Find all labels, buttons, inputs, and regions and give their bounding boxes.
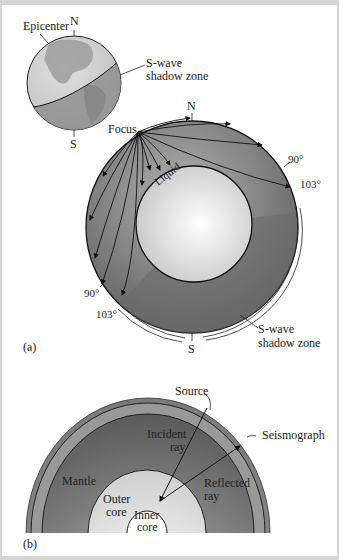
angle-right-103: 103°	[300, 178, 321, 190]
incident-ray-label-line1: Incident	[147, 427, 187, 441]
angle-right-90: 90°	[288, 153, 303, 165]
reflected-ray-label-line1: Reflected	[204, 476, 250, 490]
globe-shadow-label-line2: shadow zone	[146, 69, 208, 83]
inner-core-label-line2: core	[137, 520, 158, 534]
south-label: S	[188, 342, 195, 356]
globe-south-label: S	[70, 137, 77, 151]
globe-shadow-label-line1: S-wave	[146, 56, 182, 70]
seismic-wave-diagram: N S Epicenter S-wave shadow zone	[2, 5, 337, 556]
mantle-label: Mantle	[62, 474, 96, 488]
globe-north-label: N	[70, 14, 79, 28]
panel-a-label: (a)	[23, 340, 36, 354]
angle-left-90: 90°	[84, 287, 99, 299]
focus-label: Focus	[108, 122, 137, 136]
shadow-zone-label-line2: shadow zone	[258, 336, 320, 350]
figure-page: N S Epicenter S-wave shadow zone	[2, 5, 337, 556]
north-label: N	[187, 99, 196, 113]
reflected-ray-label-line2: ray	[204, 489, 219, 503]
panel-b-label: (b)	[23, 537, 37, 551]
earth-cross-section: Liquid Focus N S 90° 103° 90° 103° S-wav…	[84, 99, 321, 376]
outer-core-label-line1: Outer	[103, 492, 130, 506]
incident-ray-label-line2: ray	[170, 440, 185, 454]
liquid-outer-core	[136, 166, 252, 282]
outer-core-label-line2: core	[106, 505, 127, 519]
epicenter-label: Epicenter	[23, 19, 69, 33]
angle-left-103: 103°	[96, 308, 117, 320]
seismograph-label: Seismograph	[262, 428, 325, 442]
shadow-zone-label-line1: S-wave	[258, 322, 294, 336]
source-label: Source	[175, 384, 208, 398]
